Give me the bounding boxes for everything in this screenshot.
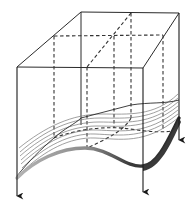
diagram-canvas bbox=[0, 0, 195, 220]
top-right-edge bbox=[143, 13, 179, 68]
top-front-edge bbox=[17, 67, 143, 68]
box-solid-edges bbox=[17, 12, 179, 125]
top-back-edge bbox=[81, 12, 179, 13]
mid-horizontal-dashed bbox=[54, 35, 163, 36]
depth-arrows bbox=[17, 13, 179, 196]
box-dashed-edges bbox=[54, 13, 178, 148]
top-left-edge bbox=[17, 12, 81, 67]
divider-diagonal-dashed bbox=[87, 13, 131, 67]
